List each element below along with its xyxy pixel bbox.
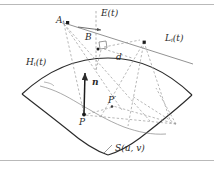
point-markers [66,21,146,116]
ray-P-to-Pprime [84,107,113,115]
projection-rays [64,24,176,126]
h-label-leader [44,82,54,86]
surface-top-edge [22,58,192,95]
label-curve-h: Hi(t) [26,58,46,68]
label-point-p-prime: P′ [108,96,116,105]
point-P-marker [82,113,86,117]
label-point-a: Ai [56,16,64,26]
ray-vp-to-edge [156,88,176,124]
figure-root: Ai B E(t) Li(t) Hi(t) d n P P′ S(u, v) [0,0,214,169]
normal-arrow-shaft [84,73,85,114]
label-distance-d: d [116,53,122,62]
surface-left-edge [22,94,108,155]
ray-L-to-vp [144,42,170,120]
ray-L-to-mid [128,42,144,126]
s-leader-line [104,145,112,153]
normal-vector [84,73,85,114]
point-L-marker [143,41,146,44]
ray-B-down [96,50,101,70]
label-line-l: Li(t) [165,34,183,44]
iso-curve-h [40,82,166,134]
right-angle-box [99,41,107,49]
diagram-canvas [0,0,214,169]
label-surface-s: S(u, v) [115,144,145,153]
label-line-e: E(t) [101,9,118,18]
ray-vp-to-surface [132,96,176,124]
point-P-prime-marker [111,105,114,108]
label-normal-n: n [92,78,99,87]
surface-label-leader [104,145,112,153]
label-point-p: P [79,118,85,127]
point-A-marker [66,21,69,24]
right-angle-marker [97,41,108,51]
label-point-b: B [85,33,92,42]
right-angle-vertex-dot [97,48,100,51]
ray-A-to-vp-a [64,24,150,121]
